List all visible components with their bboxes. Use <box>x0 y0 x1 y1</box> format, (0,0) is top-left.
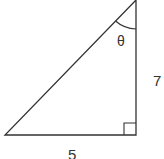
triangle-figure <box>0 0 164 159</box>
horizontal-side-label: 5 <box>68 147 76 159</box>
vertical-side-label: 7 <box>153 73 161 88</box>
triangle-diagram: θ 7 5 <box>0 0 164 159</box>
angle-theta-label: θ <box>117 34 125 48</box>
angle-arc <box>116 21 137 29</box>
triangle-shape <box>5 0 136 135</box>
right-angle-marker <box>124 123 136 135</box>
